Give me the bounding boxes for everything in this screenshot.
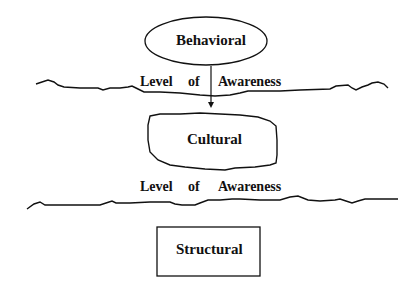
awareness-line-1	[36, 80, 388, 96]
awareness-label-1-word-1: Level	[140, 74, 173, 90]
cultural-label: Cultural	[187, 131, 242, 148]
awareness-label-1-word-3: Awareness	[218, 74, 281, 90]
awareness-label-2-word-1: Level	[140, 179, 173, 195]
arrow-head-icon	[208, 102, 214, 108]
behavioral-label: Behavioral	[176, 32, 246, 49]
diagram-canvas: Behavioral Cultural Structural Level of …	[0, 0, 419, 285]
structural-label: Structural	[176, 241, 243, 258]
awareness-label-2-word-2: of	[188, 179, 200, 195]
awareness-label-1-word-2: of	[188, 74, 200, 90]
awareness-line-2	[27, 196, 398, 209]
awareness-label-2-word-3: Awareness	[218, 179, 281, 195]
